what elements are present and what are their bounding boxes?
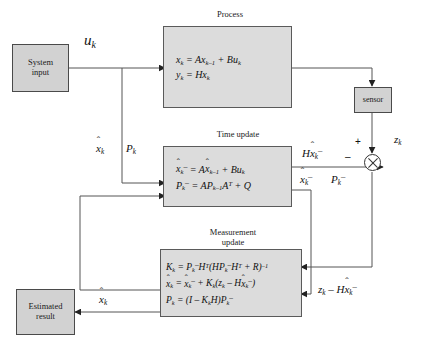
summing-junction-plus-sign: + [355,137,361,147]
signal-label-xhat-output: xˆk [99,293,107,307]
signal-label-xhat-k-minus: xˆk– [300,171,312,187]
signal-label-P-k: Pk [126,142,136,156]
signal-label-uk: uk [84,32,96,50]
sensor-node: sensor [354,87,392,113]
process-equation-1: xk = Axk–1 + Buk [176,54,291,66]
sensor-label: sensor [363,95,383,104]
measurement-update-equation-2: xˆk = xˆk– + Kk(zk – Hxˆk–) [166,276,301,289]
signal-label-zk: zk [394,133,402,147]
measurement-update-caption-line1: Measurement [210,227,256,237]
estimated-result-label-line2: result [36,311,55,321]
measurement-update-caption-line2: update [222,237,245,247]
time-update-block: xˆk– = Axˆk–1 + Buk Pk– = APk–1AT + Q [163,146,292,207]
signal-label-P-k-minus: Pk– [331,171,345,187]
measurement-update-equation-1: Kk = Pk–HT(HPk–HT + R)–1 [166,260,301,273]
signal-label-H-xhat-minus: Hxˆk– [302,145,322,161]
summing-junction-minus-sign: – [345,152,351,162]
time-update-caption: Time update [183,130,293,140]
time-update-equation-2: Pk– = APk–1AT + Q [176,178,291,191]
estimated-result-node: Estimated result [16,289,75,335]
time-update-equation-1: xˆk– = Axˆk–1 + Buk [176,162,291,175]
system-input-label-line1: System [28,57,53,67]
kalman-filter-diagram: System input Process xk = Axk–1 + Buk yk… [0,0,427,346]
system-input-node: System input [12,44,69,92]
process-equation-2: yk = Hxk [176,69,291,81]
estimated-result-label-line1: Estimated [29,301,63,311]
measurement-update-caption: Measurement update [178,228,288,247]
measurement-update-block: Kk = Pk–HT(HPk–HT + R)–1 xˆk = xˆk– + Kk… [160,249,302,317]
signal-label-xhat-k: xˆk [96,142,104,156]
process-block: xk = Axk–1 + Buk yk = Hxk [163,26,292,108]
process-caption: Process [185,10,275,20]
summing-junction [364,154,381,171]
measurement-update-equation-3: Pk = (I – KkH)Pk– [166,293,301,306]
system-input-label-line2: input [32,67,49,77]
signal-label-residual: zk – Hxˆk– [318,281,357,297]
